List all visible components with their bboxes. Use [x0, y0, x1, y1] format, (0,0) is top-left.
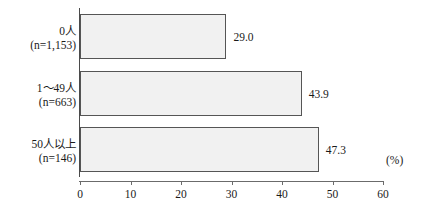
x-tick-6 [383, 181, 384, 185]
category-label-1-line1: 1〜49人 [0, 81, 76, 95]
x-tick-label-0: 0 [60, 188, 100, 200]
unit-label: (%) [386, 154, 403, 166]
category-label-1: 1〜49人 (n=663) [0, 81, 76, 109]
bar-0 [80, 14, 226, 59]
x-tick-label-1: 10 [111, 188, 151, 200]
x-tick-0 [80, 181, 81, 185]
x-tick-label-5: 50 [313, 188, 353, 200]
bar-2 [80, 127, 319, 172]
category-label-2: 50人以上 (n=146) [0, 137, 76, 165]
bar-value-1: 43.9 [309, 88, 329, 100]
category-label-0-line2: (n=1,153) [0, 38, 76, 52]
x-tick-3 [232, 181, 233, 185]
category-label-1-line2: (n=663) [0, 95, 76, 109]
bar-value-0: 29.0 [233, 31, 253, 43]
x-tick-1 [131, 181, 132, 185]
category-label-0: 0人 (n=1,153) [0, 24, 76, 52]
bar-value-2: 47.3 [326, 144, 346, 156]
x-tick-5 [333, 181, 334, 185]
bar-chart: 0人 (n=1,153) 1〜49人 (n=663) 50人以上 (n=146)… [0, 0, 430, 219]
category-label-2-line1: 50人以上 [0, 137, 76, 151]
x-tick-label-6: 60 [363, 188, 403, 200]
x-tick-4 [282, 181, 283, 185]
x-tick-label-4: 40 [262, 188, 302, 200]
category-label-2-line2: (n=146) [0, 151, 76, 165]
plot-area: 29.0 43.9 47.3 0102030405060 [80, 0, 383, 219]
x-tick-label-3: 30 [212, 188, 252, 200]
x-tick-2 [181, 181, 182, 185]
bar-1 [80, 71, 302, 116]
category-label-0-line1: 0人 [0, 24, 76, 38]
x-tick-label-2: 20 [161, 188, 201, 200]
